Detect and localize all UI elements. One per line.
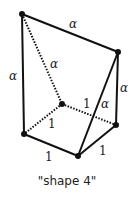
solid-edges xyxy=(22,14,118,156)
vertex-back-center xyxy=(59,101,65,107)
label-right-edge: α xyxy=(120,81,128,95)
vertex-right-bottom xyxy=(113,122,119,128)
edge-right xyxy=(116,52,118,125)
edge-back-left-dotted xyxy=(24,104,62,134)
label-front-left: 1 xyxy=(45,150,53,164)
label-inner-diagonal: α xyxy=(101,97,109,111)
vertex-top-left xyxy=(19,11,25,17)
edge-left xyxy=(22,14,24,134)
label-back-right: 1 xyxy=(83,97,91,111)
label-left-edge: α xyxy=(9,69,17,83)
vertex-left-bottom xyxy=(21,131,27,137)
label-diagonal-dotted: α xyxy=(50,57,58,71)
label-front-right: 1 xyxy=(99,144,107,158)
vertex-right-top xyxy=(115,49,121,55)
label-back-left: 1 xyxy=(48,117,56,131)
polyhedron-diagram: α α α α α 1 1 1 1 xyxy=(0,0,134,198)
label-top-edge: α xyxy=(69,17,77,31)
vertex-front-bottom xyxy=(75,153,81,159)
caption: "shape 4" xyxy=(0,174,134,188)
